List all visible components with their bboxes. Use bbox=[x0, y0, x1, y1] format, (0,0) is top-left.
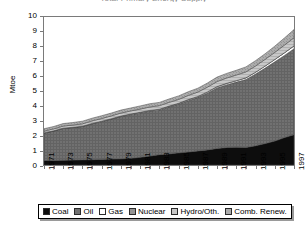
y-tick-label: 1 bbox=[15, 147, 37, 155]
x-tick-mark bbox=[284, 166, 285, 169]
y-tick-mark bbox=[40, 166, 43, 167]
coal-swatch bbox=[43, 208, 50, 215]
legend-item-label: Oil bbox=[83, 208, 93, 216]
x-tick-mark bbox=[246, 166, 247, 169]
legend-item-label: Comb. Renew. bbox=[234, 208, 286, 216]
x-tick-mark bbox=[131, 166, 132, 169]
comb-renew-swatch bbox=[225, 208, 232, 215]
x-tick-mark bbox=[256, 166, 257, 169]
chart-title: Total Primary Energy Supply bbox=[0, 0, 307, 2]
legend-item[interactable]: Hydro/Oth. bbox=[171, 208, 219, 216]
x-tick-mark bbox=[150, 166, 151, 169]
y-tick-label: 10 bbox=[15, 12, 37, 20]
x-tick-mark bbox=[217, 166, 218, 169]
legend-item[interactable]: Oil bbox=[74, 208, 93, 216]
x-tick-mark bbox=[102, 166, 103, 169]
y-tick-label: 5 bbox=[15, 87, 37, 95]
x-tick-mark bbox=[236, 166, 237, 169]
y-axis-label: Mtoe bbox=[8, 65, 17, 105]
y-tick-label: 6 bbox=[15, 72, 37, 80]
x-tick-label: 1981 bbox=[144, 152, 152, 170]
x-tick-label: 1991 bbox=[240, 152, 248, 170]
x-tick-label: 1973 bbox=[67, 152, 75, 170]
legend-item[interactable]: Gas bbox=[99, 208, 123, 216]
chart-figure: Total Primary Energy Supply Mtoe 0123456… bbox=[0, 0, 307, 232]
x-tick-mark bbox=[198, 166, 199, 169]
stacked-area-plot bbox=[44, 17, 294, 165]
x-tick-mark bbox=[92, 166, 93, 169]
x-tick-label: 1975 bbox=[86, 152, 94, 170]
y-tick-label: 3 bbox=[15, 117, 37, 125]
x-tick-mark bbox=[54, 166, 55, 169]
nuclear-swatch bbox=[129, 208, 136, 215]
x-tick-mark bbox=[73, 166, 74, 169]
x-tick-label: 1989 bbox=[221, 152, 229, 170]
x-tick-label: 1977 bbox=[106, 152, 114, 170]
x-tick-mark bbox=[140, 166, 141, 169]
x-tick-label: 1995 bbox=[279, 152, 287, 170]
x-tick-mark bbox=[159, 166, 160, 169]
x-tick-label: 1971 bbox=[48, 152, 56, 170]
x-tick-mark bbox=[294, 166, 295, 169]
x-tick-mark bbox=[207, 166, 208, 169]
x-tick-mark bbox=[265, 166, 266, 169]
legend-item[interactable]: Comb. Renew. bbox=[225, 208, 286, 216]
y-tick-label: 7 bbox=[15, 57, 37, 65]
x-tick-label: 1993 bbox=[260, 152, 268, 170]
legend-item[interactable]: Nuclear bbox=[129, 208, 166, 216]
x-tick-mark bbox=[63, 166, 64, 169]
y-tick-label: 9 bbox=[15, 27, 37, 35]
x-tick-mark bbox=[169, 166, 170, 169]
gas-swatch bbox=[99, 208, 106, 215]
x-tick-mark bbox=[227, 166, 228, 169]
x-tick-mark bbox=[111, 166, 112, 169]
x-tick-mark bbox=[82, 166, 83, 169]
x-tick-label: 1997 bbox=[298, 152, 306, 170]
y-tick-label: 0 bbox=[15, 162, 37, 170]
y-tick-label: 2 bbox=[15, 132, 37, 140]
x-tick-label: 1983 bbox=[163, 152, 171, 170]
x-tick-mark bbox=[121, 166, 122, 169]
x-tick-mark bbox=[188, 166, 189, 169]
legend-item[interactable]: Coal bbox=[43, 208, 68, 216]
x-tick-label: 1987 bbox=[202, 152, 210, 170]
plot-area bbox=[43, 16, 295, 166]
legend-item-label: Nuclear bbox=[138, 208, 166, 216]
legend-item-label: Coal bbox=[52, 208, 68, 216]
oil-swatch bbox=[74, 208, 81, 215]
x-tick-mark bbox=[179, 166, 180, 169]
x-tick-label: 1979 bbox=[125, 152, 133, 170]
chart-legend: CoalOilGasNuclearHydro/Oth.Comb. Renew. bbox=[38, 204, 292, 219]
hydro-swatch bbox=[171, 208, 178, 215]
x-tick-mark bbox=[275, 166, 276, 169]
x-tick-label: 1985 bbox=[183, 152, 191, 170]
y-tick-label: 4 bbox=[15, 102, 37, 110]
x-tick-mark bbox=[44, 166, 45, 169]
legend-item-label: Gas bbox=[108, 208, 123, 216]
legend-item-label: Hydro/Oth. bbox=[180, 208, 219, 216]
y-tick-label: 8 bbox=[15, 42, 37, 50]
